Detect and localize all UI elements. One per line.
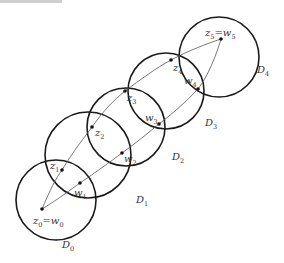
point-label-z1: z1 [49,160,59,174]
point-z2 [90,125,94,129]
disk-chain-diagram: D0D1D2D3D4z0=w0z1w1z2w2z3w3z4w4z5=w5 [0,0,284,263]
labels-group: D0D1D2D3D4z0=w0z1w1z2w2z3w3z4w4z5=w5 [32,27,269,253]
point-label-z4: z4 [172,62,182,76]
disk-label-D2: D2 [171,151,184,165]
point-z0-eq-w0 [40,207,44,211]
points-group [40,37,223,211]
point-label-z3: z3 [126,92,136,106]
point-z1 [60,168,64,172]
point-w4 [196,87,200,91]
disk-label-D1: D1 [135,194,148,208]
point-label-w1: w1 [74,187,87,201]
disk-label-D0: D0 [61,239,74,253]
point-w3 [157,122,161,126]
disk-D1 [45,112,131,198]
disk-label-D3: D3 [204,117,217,131]
disk-label-D4: D4 [256,64,269,78]
point-label-z2: z2 [94,127,104,141]
point-label-z0-eq-w0: z0=w0 [32,215,64,229]
disks-group [16,17,259,240]
point-w1 [78,181,82,185]
point-label-w4: w4 [184,75,197,89]
